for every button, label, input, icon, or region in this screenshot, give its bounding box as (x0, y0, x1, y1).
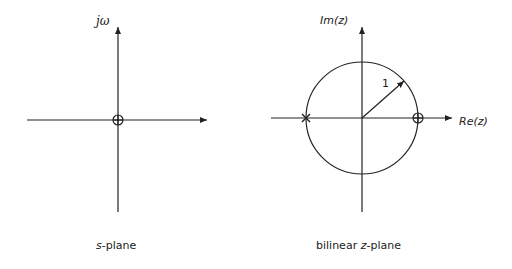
s-plane-caption-rest: -plane (102, 239, 137, 252)
z-plane-caption-rest: -plane (366, 239, 401, 252)
s-plane-jw-label: jω (96, 14, 110, 28)
s-plane-zero-marker (113, 115, 123, 125)
z-plane-caption: bilinear z-plane (316, 239, 401, 252)
z-plane-diagram (271, 27, 452, 212)
diagram-canvas (0, 0, 512, 269)
radius-label: 1 (382, 77, 389, 90)
s-plane-diagram (27, 27, 207, 212)
z-plane-caption-pre: bilinear (316, 239, 361, 252)
z-plane-re-label: Re(z) (459, 115, 488, 128)
z-plane-im-label: Im(z) (320, 14, 348, 27)
s-plane-caption: s-plane (96, 239, 136, 252)
z-plane-zero-marker (413, 113, 423, 123)
